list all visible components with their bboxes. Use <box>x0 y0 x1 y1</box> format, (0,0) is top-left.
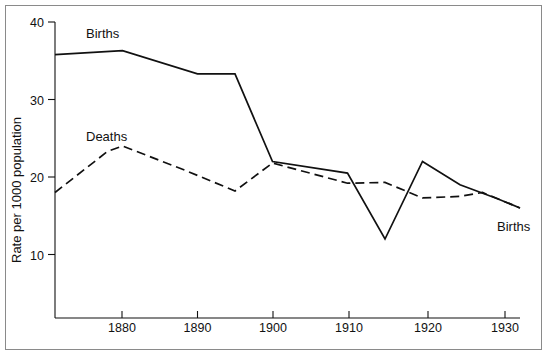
x-tick-label-1900: 1900 <box>259 321 287 335</box>
x-tick-label-1930: 1930 <box>491 321 519 335</box>
y-tick-label-40: 40 <box>30 16 44 30</box>
y-axis-title: Rate per 1000 population <box>9 117 24 263</box>
series-annotation-births-top: Births <box>86 26 120 41</box>
y-tick-label-30: 30 <box>30 94 44 108</box>
x-tick-label-1890: 1890 <box>184 321 212 335</box>
series-line-deaths <box>55 146 520 208</box>
series-annotation-births-right: Births <box>497 219 531 234</box>
line-chart-plot: 40 30 20 10 1880 1890 1900 1910 1920 193… <box>0 0 549 359</box>
x-tick-label-1920: 1920 <box>414 321 442 335</box>
x-tick-label-1880: 1880 <box>108 321 136 335</box>
figure-container: 40 30 20 10 1880 1890 1900 1910 1920 193… <box>0 0 549 359</box>
x-tick-label-1910: 1910 <box>335 321 363 335</box>
series-annotation-deaths: Deaths <box>86 129 128 144</box>
series-line-births <box>55 51 520 239</box>
y-tick-label-10: 10 <box>30 249 44 263</box>
y-tick-label-20: 20 <box>30 171 44 185</box>
